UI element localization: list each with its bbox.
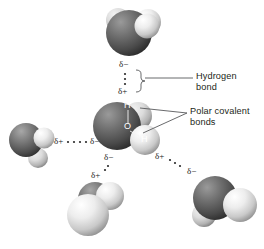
hydrogen-bond-dots-top [124,73,126,85]
hydrogen-bond-dots-bottom [104,165,109,171]
hydrogen-sphere [135,14,160,39]
molecule-right [192,176,257,227]
atom-label-h-top: H [124,100,131,110]
molecule-left [9,123,55,168]
hydrogen-sphere [67,194,109,236]
charge-top-mol-delta-minus: δ− [119,59,128,69]
charge-left-mol-delta-plus: δ+ [54,136,63,146]
charge-right-mol-delta-minus: δ− [187,166,196,176]
charge-center-mol-delta-minus-down: δ− [104,152,113,162]
charge-center-mol-delta-plus-right: δ+ [155,151,164,161]
charge-center-mol-delta-minus-left: δ− [90,136,99,146]
hydrogen-sphere [34,128,55,149]
hydrogen-sphere [223,188,257,222]
molecule-bottom [67,182,124,236]
atom-label-o-center: O [124,121,131,131]
charge-center-mol-delta-plus-up: δ+ [118,86,127,96]
brace-icon [136,70,145,92]
callout-hydrogen-bond: Hydrogen bond [196,71,237,93]
hydrogen-bond-dots-left [67,141,87,143]
hydrogen-bond-dots-right [169,159,181,167]
water-hydrogen-bonding-figure: H O H δ− δ+ δ+ δ− δ− δ+ δ+ δ− Hydrogen b… [0,0,264,249]
callout-polar-covalent-bonds: Polar covalent bonds [190,106,250,128]
charge-bottom-mol-delta-plus: δ+ [91,170,100,180]
atom-label-h-right: H [141,134,148,144]
molecule-top [106,8,161,56]
